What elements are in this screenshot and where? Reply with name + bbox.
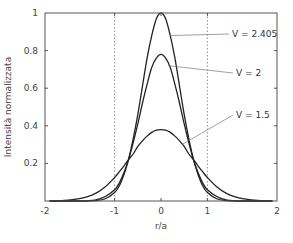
series-line-v1-5 xyxy=(50,130,273,201)
annotation-label: V = 1.5 xyxy=(236,110,270,120)
annotation-label: V = 2 xyxy=(236,68,261,78)
x-tick-label: 0 xyxy=(158,206,164,216)
y-tick-label: 0.2 xyxy=(24,158,38,168)
annotation-label: V = 2.405 xyxy=(232,29,277,39)
x-axis-label: r/a xyxy=(155,221,167,231)
plot-frame xyxy=(45,13,277,201)
series-line-v2-405 xyxy=(50,13,273,201)
y-tick-label: 1 xyxy=(32,8,38,18)
annotation-leader xyxy=(170,34,229,36)
y-tick-label: 0.6 xyxy=(24,83,39,93)
x-tick-label: -1 xyxy=(110,206,119,216)
x-tick-label: 1 xyxy=(205,206,211,216)
line-chart: -2-10120.20.40.60.81 V = 2.405V = 2V = 1… xyxy=(0,0,293,243)
x-tick-label: 2 xyxy=(274,206,280,216)
y-tick-label: 0.8 xyxy=(24,46,39,56)
x-tick-label: -2 xyxy=(41,206,50,216)
y-tick-label: 0.4 xyxy=(24,121,39,131)
y-axis-label: Intensità normalizzata xyxy=(3,57,13,157)
